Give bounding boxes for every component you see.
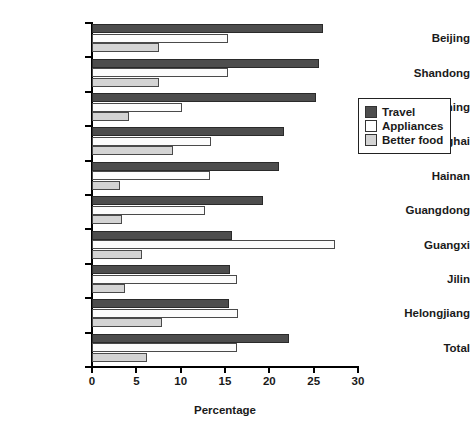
bar-shanghai-appliances	[92, 137, 358, 146]
bar-liaoning-travel	[92, 93, 358, 102]
bar-fill	[92, 265, 230, 274]
y-axis-label-total: Total	[384, 342, 470, 354]
y-tick	[85, 194, 92, 196]
bar-fill	[92, 43, 159, 52]
bar-fill	[92, 68, 228, 77]
bar-fill	[92, 24, 323, 33]
bar-shanghai-travel	[92, 127, 358, 136]
legend-item-appliances: Appliances	[365, 120, 443, 132]
bar-fill	[92, 112, 129, 121]
bar-fill	[92, 34, 228, 43]
y-tick	[85, 22, 92, 24]
bar-fill	[92, 215, 122, 224]
x-axis-tick-label: 30	[338, 375, 378, 387]
bar-fill	[92, 334, 289, 343]
legend-label: Better food	[382, 134, 443, 146]
bar-fill	[92, 59, 319, 68]
bar-shandong-better-food	[92, 78, 358, 87]
y-axis-label-hainan: Hainan	[384, 170, 470, 182]
bar-fill	[92, 275, 237, 284]
x-tick	[268, 366, 270, 373]
bar-fill	[92, 309, 238, 318]
y-tick	[85, 332, 92, 334]
y-axis-label-guangdong: Guangdong	[384, 204, 470, 216]
legend-swatch-icon	[365, 106, 377, 118]
y-axis-label-guangxi: Guangxi	[384, 239, 470, 251]
bar-fill	[92, 137, 211, 146]
bar-fill	[92, 127, 284, 136]
x-tick	[313, 366, 315, 373]
bar-fill	[92, 206, 205, 215]
x-axis-title: Percentage	[0, 404, 450, 416]
bar-fill	[92, 250, 142, 259]
x-axis-tick-label: 15	[205, 375, 245, 387]
bar-fill	[92, 171, 210, 180]
x-tick	[180, 366, 182, 373]
legend-item-travel: Travel	[365, 106, 443, 118]
x-tick	[357, 366, 359, 373]
x-tick	[224, 366, 226, 373]
x-axis-tick-label: 5	[116, 375, 156, 387]
bar-fill	[92, 162, 279, 171]
chart-legend: TravelAppliancesBetter food	[358, 98, 451, 154]
y-tick	[85, 160, 92, 162]
x-axis-tick-label: 20	[249, 375, 289, 387]
bar-hainan-better-food	[92, 181, 358, 190]
x-axis-tick-label: 10	[161, 375, 201, 387]
bar-fill	[92, 231, 232, 240]
y-tick	[85, 125, 92, 127]
bar-fill	[92, 78, 159, 87]
bar-shanghai-better-food	[92, 146, 358, 155]
bar-fill	[92, 103, 182, 112]
bar-guangxi-travel	[92, 231, 358, 240]
bar-helongjiang-appliances	[92, 309, 358, 318]
bar-total-travel	[92, 334, 358, 343]
y-tick	[85, 228, 92, 230]
y-tick	[85, 56, 92, 58]
bar-beijing-travel	[92, 24, 358, 33]
bar-jilin-appliances	[92, 275, 358, 284]
y-axis-label-shandong: Shandong	[384, 67, 470, 79]
bar-hainan-travel	[92, 162, 358, 171]
bar-guangdong-appliances	[92, 206, 358, 215]
plot-area	[92, 22, 358, 366]
bar-helongjiang-better-food	[92, 318, 358, 327]
x-axis-tick-label: 0	[72, 375, 112, 387]
bar-beijing-better-food	[92, 43, 358, 52]
legend-swatch-icon	[365, 134, 377, 146]
bar-liaoning-better-food	[92, 112, 358, 121]
bar-guangdong-better-food	[92, 215, 358, 224]
bar-fill	[92, 318, 162, 327]
bar-fill	[92, 353, 147, 362]
bar-helongjiang-travel	[92, 299, 358, 308]
legend-label: Travel	[382, 106, 415, 118]
bar-fill	[92, 93, 316, 102]
bar-shandong-travel	[92, 59, 358, 68]
bar-fill	[92, 284, 125, 293]
bar-guangxi-appliances	[92, 240, 358, 249]
y-tick	[85, 263, 92, 265]
bar-fill	[92, 343, 237, 352]
x-axis-tick-label: 25	[294, 375, 334, 387]
y-axis-label-helongjiang: Helongjiang	[384, 307, 470, 319]
bar-total-better-food	[92, 353, 358, 362]
bar-fill	[92, 299, 229, 308]
y-tick	[85, 91, 92, 93]
bar-fill	[92, 146, 173, 155]
bar-guangxi-better-food	[92, 250, 358, 259]
bar-guangdong-travel	[92, 196, 358, 205]
x-tick	[91, 366, 93, 373]
legend-item-better-food: Better food	[365, 134, 443, 146]
bar-shandong-appliances	[92, 68, 358, 77]
bar-fill	[92, 196, 263, 205]
legend-swatch-icon	[365, 120, 377, 132]
legend-label: Appliances	[382, 120, 443, 132]
bar-fill	[92, 240, 335, 249]
bar-jilin-better-food	[92, 284, 358, 293]
bar-liaoning-appliances	[92, 103, 358, 112]
y-tick	[85, 297, 92, 299]
bar-fill	[92, 181, 120, 190]
bar-hainan-appliances	[92, 171, 358, 180]
bar-jilin-travel	[92, 265, 358, 274]
x-tick	[135, 366, 137, 373]
